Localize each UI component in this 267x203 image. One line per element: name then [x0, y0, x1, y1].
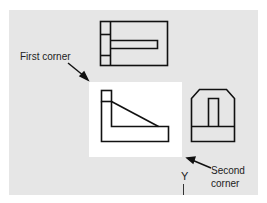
second-corner-label-line2: corner	[211, 178, 239, 190]
selection-window[interactable]	[89, 82, 182, 157]
second-corner-label-line1: Second	[211, 165, 245, 177]
y-axis-label: Y	[181, 170, 188, 182]
diagram-canvas: First corner Second corner Y	[0, 0, 267, 203]
first-corner-label: First corner	[20, 51, 71, 63]
